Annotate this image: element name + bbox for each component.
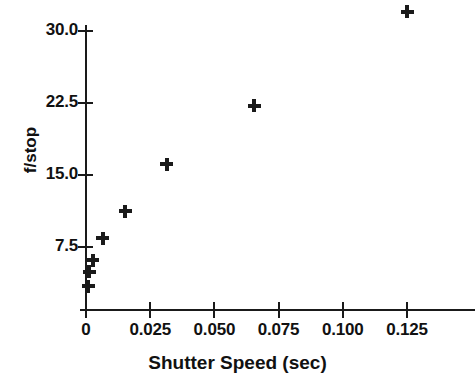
data-point-marker [82, 280, 95, 293]
data-markers-layer [0, 0, 475, 379]
data-point-marker [83, 265, 96, 278]
data-point-marker [96, 232, 109, 245]
data-point-marker [160, 158, 173, 171]
data-point-marker [119, 205, 132, 218]
x-axis-title: Shutter Speed (sec) [0, 352, 475, 374]
data-point-marker [248, 99, 261, 112]
data-point-marker [401, 5, 414, 18]
y-axis-title: f/stop [21, 105, 41, 195]
data-point-marker [86, 254, 99, 267]
scatter-plot-figure: 7.515.022.530.000.0250.0500.0750.1000.12… [0, 0, 475, 379]
